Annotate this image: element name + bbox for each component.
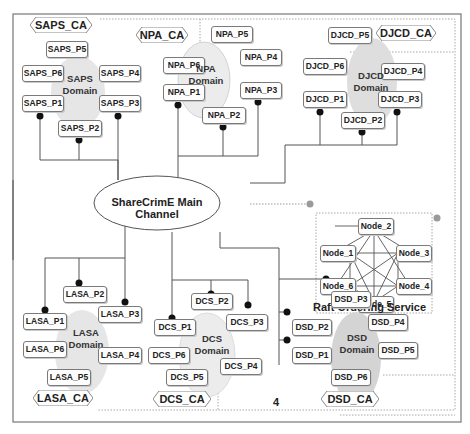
peer-dsd-p6: DSD_P6 <box>331 369 371 386</box>
peer-lasa-p2: LASA_P2 <box>63 286 107 303</box>
peer-npa-p5: NPA_P5 <box>211 26 253 43</box>
peer-dsd-p2: DSD_P2 <box>292 319 332 336</box>
peer-saps-p5: SAPS_P5 <box>46 41 88 58</box>
main-channel-label: ShareCrimE Main Channel <box>94 196 220 220</box>
peer-dsd-p5: DSD_P5 <box>378 342 418 359</box>
raft-link-dot-right <box>434 215 441 222</box>
dsd-ca-badge: DSD_CA <box>321 391 379 407</box>
peer-lasa-p5: LASA_P5 <box>47 369 91 386</box>
peer-lasa-p4: LASA_P4 <box>98 347 142 364</box>
saps-ca-badge: SAPS_CA <box>30 17 92 33</box>
peer-djcd-p6: DJCD_P6 <box>303 58 347 75</box>
peer-lasa-p6: LASA_P6 <box>23 341 67 358</box>
peer-saps-p3: SAPS_P3 <box>99 95 141 112</box>
raft-link-dot-left <box>307 201 314 208</box>
peer-dcs-p3: DCS_P3 <box>226 314 268 331</box>
peer-saps-p6: SAPS_P6 <box>22 65 64 82</box>
dsd-domain-label: DSDDomain <box>337 332 377 356</box>
raft-node-3: Node_3 <box>396 245 432 262</box>
raft-node-4: Node_4 <box>396 278 432 295</box>
peer-djcd-p2: DJCD_P2 <box>341 112 385 129</box>
peer-saps-p2: SAPS_P2 <box>58 120 102 137</box>
peer-lasa-p3: LASA_P3 <box>98 306 142 323</box>
saps-domain-label: SAPSDomain <box>60 73 100 97</box>
peer-saps-p4: SAPS_P4 <box>99 65 141 82</box>
peer-djcd-p1: DJCD_P1 <box>303 91 347 108</box>
peer-npa-p4: NPA_P4 <box>240 49 282 66</box>
dcs-ca-badge: DCS_CA <box>153 391 211 407</box>
peer-lasa-p1: LASA_P1 <box>23 313 67 330</box>
peer-djcd-p5: DJCD_P5 <box>328 27 372 44</box>
raft-node-2: Node_2 <box>358 218 394 235</box>
peer-dcs-p2: DCS_P2 <box>191 293 233 310</box>
npa-ca-badge: NPA_CA <box>136 27 188 43</box>
peer-dcs-p6: DCS_P6 <box>148 347 190 364</box>
raft-node-1: Node_1 <box>320 245 356 262</box>
dcs-domain-label: DCSDomain <box>192 333 232 357</box>
lasa-ca-badge: LASA_CA <box>33 390 93 406</box>
peer-npa-p1: NPA_P1 <box>163 84 205 101</box>
peer-dsd-p3: DSD_P3 <box>331 291 371 308</box>
peer-djcd-p3: DJCD_P3 <box>378 91 422 108</box>
peer-npa-p3: NPA_P3 <box>240 82 282 99</box>
blockchain-network-diagram: ShareCrimE Main Channel Node_2 Node_1 No… <box>0 0 470 434</box>
peer-dcs-p4: DCS_P4 <box>220 358 262 375</box>
peer-dsd-p1: DSD_P1 <box>292 347 332 364</box>
djcd-ca-badge: DJCD_CA <box>376 25 436 41</box>
page-number: 4 <box>273 396 279 408</box>
peer-dsd-p4: DSD_P4 <box>368 314 408 331</box>
peer-dcs-p1: DCS_P1 <box>154 319 196 336</box>
peer-npa-p2: NPA_P2 <box>202 107 246 124</box>
peer-saps-p1: SAPS_P1 <box>22 95 64 112</box>
peer-dcs-p5: DCS_P5 <box>166 369 208 386</box>
